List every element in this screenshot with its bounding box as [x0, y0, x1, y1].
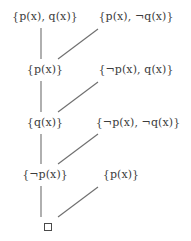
empty-clause-box [44, 223, 52, 231]
clause-node-l2: {p(x)} [27, 63, 63, 76]
clause-node-r3: {¬p(x), ¬q(x)} [96, 116, 180, 129]
clause-node-l1: {p(x), q(x)} [12, 10, 78, 23]
clause-node-r4: {p(x)} [103, 168, 139, 181]
diagonal-edge-r2-l3 [58, 82, 98, 112]
clause-node-r1: {p(x), ¬q(x)} [98, 10, 173, 23]
clause-node-r2: {¬p(x), q(x)} [98, 63, 173, 76]
diagonal-edge-r1-l2 [58, 29, 98, 59]
proof-tree-diagram: {p(x), q(x)} {p(x)} {q(x)} {¬p(x)} {p(x)… [0, 0, 191, 241]
clause-node-l3: {q(x)} [27, 116, 63, 129]
diagonal-edge-r4-e [58, 187, 98, 217]
clause-node-l4: {¬p(x)} [22, 168, 68, 181]
diagonal-edge-r3-l4 [58, 134, 98, 164]
